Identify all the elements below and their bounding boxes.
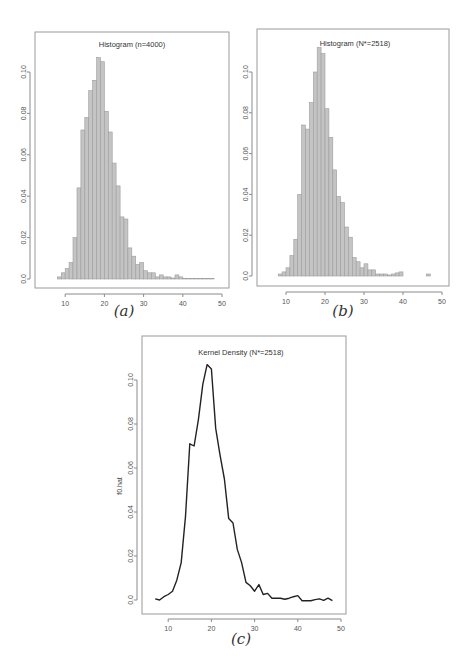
y-tick-label: 0.06: [127, 461, 134, 475]
x-tick-label: 10: [164, 625, 172, 632]
histogram-bar: [426, 274, 430, 276]
histogram-bar: [309, 103, 313, 276]
histogram-bar: [85, 118, 89, 280]
histogram-bar: [120, 217, 124, 279]
histogram-bars: [278, 48, 430, 277]
histogram-bar: [124, 219, 128, 279]
histogram-bar: [345, 227, 349, 276]
histogram-bar: [290, 256, 294, 276]
x-tick-label: 10: [282, 298, 290, 305]
histogram-bar: [132, 256, 136, 279]
x-tick-label: 40: [294, 625, 302, 632]
histogram-bar: [155, 277, 159, 279]
histogram-bar: [286, 268, 290, 276]
histogram-panel-a: Histogram (n=4000) 1020304050 0.00.020.0…: [20, 32, 229, 320]
histogram-bar: [151, 273, 155, 279]
histogram-bar: [93, 80, 97, 279]
x-tick-label: 30: [251, 625, 259, 632]
y-tick-label: 0.10: [242, 65, 249, 79]
histogram-bar: [337, 196, 341, 276]
chart-title: Histogram (N*=2518): [320, 39, 391, 48]
histogram-bar: [298, 194, 302, 276]
y-tick-label: 0.04: [242, 187, 249, 201]
y-axis: 0.00.020.040.060.080.10: [127, 373, 137, 605]
histogram-bar: [278, 274, 282, 276]
x-tick-label: 40: [399, 298, 407, 305]
y-tick-label: 0.10: [20, 65, 27, 79]
x-tick-label: 50: [337, 625, 345, 632]
histogram-bar: [57, 277, 61, 279]
histogram-bar: [384, 274, 388, 276]
y-tick-label: 0.10: [127, 373, 134, 387]
plot-frame: [257, 29, 449, 286]
y-tick-label: 0.08: [242, 106, 249, 120]
histogram-bar: [387, 275, 391, 276]
histogram-bar: [329, 137, 333, 276]
x-tick-label: 30: [140, 300, 148, 307]
y-axis: 0.00.020.040.060.080.10: [20, 65, 30, 284]
histogram-bar: [372, 270, 376, 276]
x-axis: 1020304050: [164, 619, 345, 632]
histogram-bar: [333, 170, 337, 276]
figure-caption: (b): [332, 302, 353, 320]
y-tick-label: 0.04: [127, 505, 134, 519]
histogram-bar: [368, 270, 372, 276]
y-tick-label: 0.02: [127, 549, 134, 563]
histogram-bar: [171, 278, 175, 279]
x-tick-label: 20: [208, 625, 216, 632]
histogram-bar: [69, 262, 73, 279]
histogram-bar: [175, 275, 179, 279]
figure-caption: (a): [114, 302, 135, 320]
x-tick-label: 10: [61, 300, 69, 307]
histogram-bar: [360, 268, 364, 276]
histogram-bar: [306, 129, 310, 276]
y-tick-label: 0.0: [20, 274, 27, 284]
histogram-bar: [116, 186, 120, 279]
histogram-bar: [61, 273, 65, 279]
density-curve: [155, 365, 332, 601]
y-axis-label: f0.hat: [116, 477, 123, 495]
histogram-bar: [195, 278, 199, 279]
y-tick-label: 0.08: [127, 417, 134, 431]
kernel-density-panel-c: Kernel Density (N*=2518) 1020304050 0.00…: [116, 336, 346, 648]
histogram-bar: [89, 91, 93, 279]
histogram-bar: [81, 130, 85, 279]
histogram-bar: [364, 264, 368, 276]
y-tick-label: 0.06: [20, 148, 27, 162]
chart-title: Kernel Density (N*=2518): [198, 348, 284, 357]
x-tick-label: 40: [179, 300, 187, 307]
x-tick-label: 20: [101, 300, 109, 307]
x-tick-label: 50: [438, 298, 446, 305]
histogram-bar: [104, 111, 108, 279]
histogram-bar: [112, 163, 116, 279]
histogram-bar: [399, 272, 403, 276]
y-tick-label: 0.0: [242, 271, 249, 281]
y-tick-label: 0.02: [242, 228, 249, 242]
x-tick-label: 50: [218, 300, 226, 307]
x-axis: 1020304050: [61, 294, 226, 307]
x-axis: 1020304050: [282, 292, 446, 305]
histogram-bar: [317, 48, 321, 277]
x-tick-label: 30: [360, 298, 368, 305]
histogram-bar: [294, 239, 298, 276]
histogram-bar: [282, 272, 286, 276]
y-tick-label: 0.02: [20, 231, 27, 245]
histogram-bar: [97, 58, 101, 280]
y-tick-label: 0.06: [242, 147, 249, 161]
histogram-bar: [395, 273, 399, 276]
histogram-bar: [341, 203, 345, 276]
figure-canvas: Histogram (n=4000) 1020304050 0.00.020.0…: [0, 0, 470, 664]
histogram-bar: [77, 188, 81, 279]
chart-title: Histogram (n=4000): [99, 40, 166, 49]
histogram-bar: [391, 274, 395, 276]
histogram-bar: [313, 72, 317, 276]
histogram-bar: [148, 273, 152, 279]
histogram-bar: [179, 277, 183, 279]
histogram-bar: [73, 238, 77, 279]
histogram-bar: [376, 274, 380, 276]
x-tick-label: 20: [321, 298, 329, 305]
histogram-bar: [348, 237, 352, 276]
y-tick-label: 0.08: [20, 106, 27, 120]
histogram-bar: [163, 277, 167, 279]
histogram-bar: [356, 262, 360, 276]
